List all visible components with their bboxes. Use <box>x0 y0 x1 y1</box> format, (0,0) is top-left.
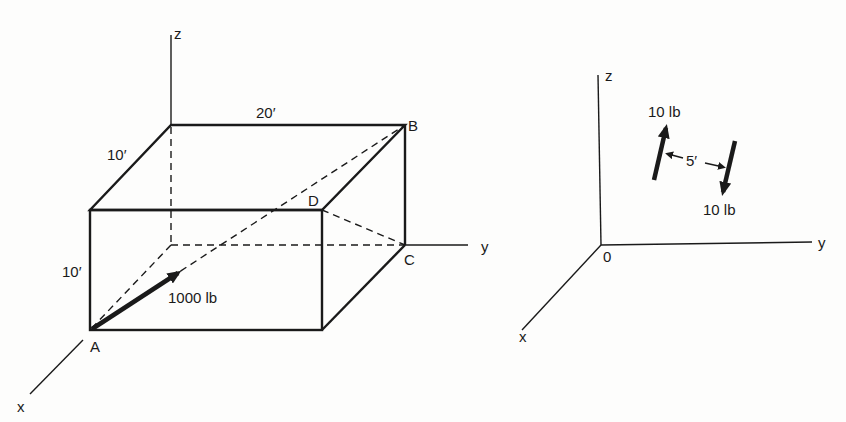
force-arrow-1000lb <box>92 273 178 329</box>
x-axis <box>522 245 601 330</box>
origin-label: 0 <box>603 248 611 265</box>
separation-label: 5′ <box>686 152 697 169</box>
separation-arrow-left <box>668 154 683 158</box>
point-B-label: B <box>408 117 418 134</box>
y-axis-label: y <box>818 234 826 251</box>
separation-arrow-right <box>705 163 723 167</box>
front-face <box>90 210 322 330</box>
line-DC <box>322 210 405 245</box>
z-axis-label: z <box>605 67 613 84</box>
upward-force-arrow <box>654 128 666 180</box>
y-axis-label: y <box>481 238 489 255</box>
x-axis <box>30 340 83 394</box>
z-axis-label: z <box>174 25 182 42</box>
length-dimension-label: 20′ <box>256 104 276 121</box>
point-A-label: A <box>90 338 100 355</box>
point-D-label: D <box>308 192 319 209</box>
downward-force-arrow <box>723 141 735 192</box>
y-axis <box>601 242 812 245</box>
diagram-canvas: z y x B D C A 20′ 10′ 10′ 1000 lb z y x … <box>0 0 846 422</box>
height-dimension-label: 10′ <box>62 263 82 280</box>
top-face <box>90 125 405 210</box>
x-axis-label: x <box>519 328 527 345</box>
downward-force-label: 10 lb <box>703 201 736 218</box>
force-magnitude-label: 1000 lb <box>168 289 217 306</box>
right-bottom-edge <box>322 245 405 330</box>
box-figure: z y x B D C A 20′ 10′ 10′ 1000 lb <box>17 25 489 415</box>
upward-force-label: 10 lb <box>648 103 681 120</box>
couple-figure: z y x 0 10 lb 10 lb 5′ <box>519 67 826 345</box>
z-axis <box>598 75 601 245</box>
x-axis-label: x <box>17 398 25 415</box>
depth-dimension-label: 10′ <box>107 146 127 163</box>
point-C-label: C <box>404 251 415 268</box>
